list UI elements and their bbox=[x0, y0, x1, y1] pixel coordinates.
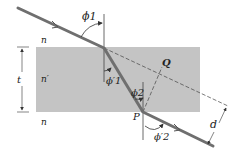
label-n-top: n bbox=[41, 35, 47, 45]
angle-arc-phi1 bbox=[81, 23, 102, 37]
label-t: t bbox=[17, 74, 22, 85]
d-dimension-bottom bbox=[208, 132, 214, 144]
label-n-bottom: n bbox=[41, 117, 47, 127]
label-phi2: ϕ2 bbox=[131, 87, 144, 98]
label-phi1: ϕ1 bbox=[82, 10, 97, 23]
label-phi2-prime: ϕ′2 bbox=[154, 131, 169, 142]
angle-arc-phi2-prime bbox=[145, 124, 163, 130]
refraction-diagram: ϕ1 n n′ n t ϕ′1 ϕ2 Q P ϕ′2 d bbox=[0, 0, 240, 154]
label-P: P bbox=[132, 111, 140, 122]
d-dimension-top bbox=[219, 108, 226, 123]
label-phi1-prime: ϕ′1 bbox=[106, 75, 121, 86]
label-n-prime: n′ bbox=[41, 74, 49, 84]
label-d: d bbox=[210, 118, 217, 131]
label-Q: Q bbox=[162, 57, 171, 68]
